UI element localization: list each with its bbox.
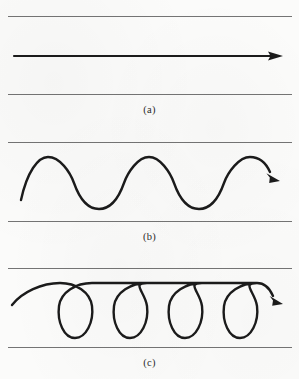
panel-b-bottom-rule xyxy=(8,221,292,222)
panel-c-top-rule xyxy=(8,268,292,269)
wave-types-figure: (a) (b) (c) xyxy=(0,0,299,379)
panel-c-bottom-rule xyxy=(8,347,292,348)
panel-b-sine-graphic xyxy=(0,0,299,379)
transverse-wave-arrow-head xyxy=(266,173,280,183)
panel-a-label: (a) xyxy=(0,104,299,115)
longitudinal-wave-path xyxy=(12,283,273,338)
panel-a-bottom-rule xyxy=(8,94,292,95)
straight-arrow-head xyxy=(268,52,283,61)
longitudinal-wave-arrow-head xyxy=(270,296,283,306)
panel-a-top-rule xyxy=(8,16,292,17)
transverse-wave-path xyxy=(21,157,270,209)
paper-texture-overlay xyxy=(0,0,299,379)
panel-b-top-rule xyxy=(8,142,292,143)
panel-c-label: (c) xyxy=(0,357,299,368)
panel-c-helix-graphic xyxy=(0,0,299,379)
panel-b-label: (b) xyxy=(0,231,299,242)
panel-a-arrow-graphic xyxy=(0,0,299,379)
